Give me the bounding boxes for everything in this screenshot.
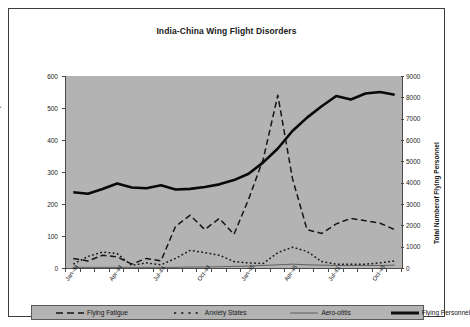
- y2-axis-tick: [401, 183, 404, 184]
- y-axis-tick: [62, 268, 65, 269]
- chart-frame: India-China Wing Flight Disorders Cases …: [8, 8, 445, 317]
- y-axis-tick-label: 300: [36, 169, 58, 176]
- x-axis-tick: [138, 269, 139, 272]
- series-line-anxiety-states: [73, 247, 394, 265]
- legend-label: Flying Fatigue: [87, 309, 128, 316]
- y-axis-tick-label: 600: [36, 73, 58, 80]
- y2-axis-title: Total Numberof Flying Personnel: [433, 142, 440, 244]
- y2-axis-tick: [401, 268, 404, 269]
- y2-axis-tick-label: 4000: [406, 179, 432, 186]
- x-axis-tick: [386, 269, 387, 272]
- y-axis-tick-label: 400: [36, 137, 58, 144]
- legend-label: Aero-otitis: [321, 309, 350, 316]
- y2-axis-tick: [401, 119, 404, 120]
- y-axis-tick: [62, 108, 65, 109]
- x-axis-tick: [123, 269, 124, 272]
- x-axis-tick: [270, 269, 271, 272]
- x-axis-tick: [401, 269, 402, 272]
- x-axis-tick: [343, 269, 344, 272]
- legend-item-flying-fatigue: Flying Fatigue: [56, 309, 128, 317]
- x-axis-tick: [80, 269, 81, 272]
- y-axis-tick: [62, 140, 65, 141]
- y-axis-tick-label: 200: [36, 201, 58, 208]
- y2-axis-tick: [401, 140, 404, 141]
- y2-axis-tick-label: 0: [406, 265, 432, 272]
- y-axis-tick-label: 0: [36, 265, 58, 272]
- x-axis-tick: [372, 269, 373, 272]
- y2-axis-tick-label: 7000: [406, 115, 432, 122]
- x-axis-tick: [196, 269, 197, 272]
- y2-axis-tick-label: 5000: [406, 158, 432, 165]
- y2-axis-tick-label: 6000: [406, 137, 432, 144]
- y-axis-tick: [62, 172, 65, 173]
- y-axis-tick: [62, 236, 65, 237]
- y2-axis-tick: [401, 204, 404, 205]
- x-axis-tick: [328, 269, 329, 272]
- thick-line-swatch: [391, 309, 419, 317]
- chart-lines: [66, 76, 402, 268]
- y-axis-tick: [62, 204, 65, 205]
- y2-axis-tick: [401, 97, 404, 98]
- y2-axis-tick-label: 2000: [406, 222, 432, 229]
- x-axis-tick: [299, 269, 300, 272]
- x-axis-tick: [255, 269, 256, 272]
- x-axis-tick: [313, 269, 314, 272]
- y2-axis-tick: [401, 225, 404, 226]
- x-axis-tick: [357, 269, 358, 272]
- y2-axis-tick: [401, 76, 404, 77]
- x-axis-tick: [226, 269, 227, 272]
- x-axis-tick: [109, 269, 110, 272]
- y-axis-tick: [62, 76, 65, 77]
- dashed-line-swatch: [56, 309, 84, 317]
- legend-item-aero-otitis: Aero-otitis: [290, 309, 350, 317]
- y2-axis-tick-label: 1000: [406, 243, 432, 250]
- x-axis-tick: [65, 269, 66, 272]
- y2-axis-tick-label: 9000: [406, 73, 432, 80]
- x-axis-tick: [153, 269, 154, 272]
- legend-label: Flying Personnel: [422, 309, 470, 316]
- chart-title: India-China Wing Flight Disorders: [9, 26, 444, 36]
- x-axis-tick: [167, 269, 168, 272]
- thin-line-swatch: [290, 309, 318, 317]
- legend-label: Anxiety States: [205, 309, 247, 316]
- x-axis-tick: [284, 269, 285, 272]
- x-axis-tick: [94, 269, 95, 272]
- y2-axis-tick-label: 8000: [406, 94, 432, 101]
- plot-area: [65, 76, 403, 268]
- y-axis-tick-label: 100: [36, 233, 58, 240]
- chart-legend: Flying Fatigue Anxiety States Aero-otiti…: [31, 305, 424, 320]
- y2-axis-tick: [401, 161, 404, 162]
- y2-axis-tick-label: 3000: [406, 201, 432, 208]
- legend-item-flying-personnel: Flying Personnel: [391, 309, 470, 317]
- x-axis-tick: [211, 269, 212, 272]
- x-axis-tick: [240, 269, 241, 272]
- dotted-line-swatch: [174, 309, 202, 317]
- x-axis-tick: [182, 269, 183, 272]
- y-axis-tick-label: 500: [36, 105, 58, 112]
- y2-axis-tick: [401, 247, 404, 248]
- legend-item-anxiety-states: Anxiety States: [174, 309, 247, 317]
- series-line-flying-personnel: [73, 92, 394, 194]
